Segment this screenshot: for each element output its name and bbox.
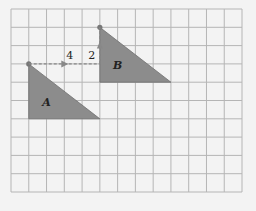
- triangle-label: B: [112, 59, 122, 72]
- arrow-label: 2: [88, 49, 95, 62]
- arrow-label: 4: [66, 49, 73, 62]
- triangle-label: A: [41, 96, 51, 109]
- translation-diagram: AB42: [0, 0, 256, 211]
